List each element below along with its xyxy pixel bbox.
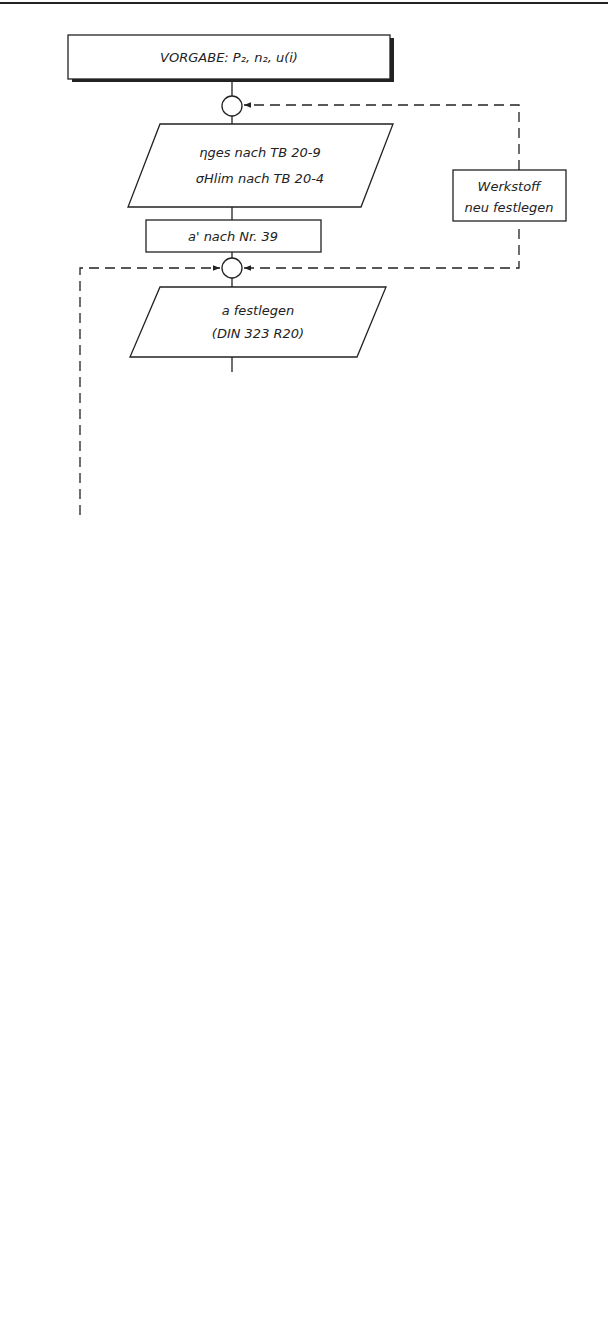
- start-box: VORGABE: P₂, n₂, u(i): [68, 35, 394, 82]
- a-fest-line1: a festlegen: [222, 303, 295, 318]
- flowchart-diagram: VORGABE: P₂, n₂, u(i) ηges nach TB 20-9 …: [0, 0, 608, 1331]
- step-eta-sigma: ηges nach TB 20-9 σHlim nach TB 20-4: [128, 124, 393, 207]
- connector-2: [222, 258, 242, 278]
- werkstoff-box: Werkstoff neu festlegen: [453, 170, 566, 221]
- werkstoff-line1: Werkstoff: [478, 179, 543, 194]
- connector-1: [222, 96, 242, 116]
- werkstoff-line2: neu festlegen: [464, 200, 553, 215]
- step-a-festlegen: a festlegen (DIN 323 R20): [130, 287, 386, 357]
- sigma-text: σHlim nach TB 20-4: [196, 171, 324, 186]
- eta-text: ηges nach TB 20-9: [199, 145, 321, 160]
- a-fest-line2: (DIN 323 R20): [212, 326, 304, 341]
- start-text: VORGABE: P₂, n₂, u(i): [160, 50, 298, 65]
- a-prime-text: a' nach Nr. 39: [188, 229, 278, 244]
- step-a-prime: a' nach Nr. 39: [146, 220, 321, 252]
